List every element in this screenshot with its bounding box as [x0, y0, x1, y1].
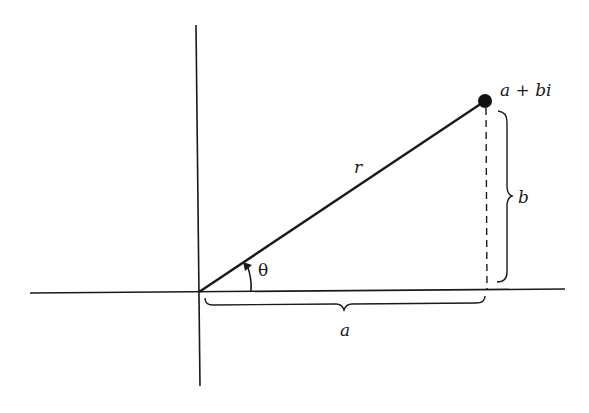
- radius-vector: [199, 101, 485, 292]
- dashed-projection-line: [486, 108, 487, 290]
- radius-label: r: [354, 157, 363, 177]
- complex-plane-diagram: a + bi r θ a b: [0, 0, 589, 413]
- real-axis: [30, 289, 565, 293]
- angle-label: θ: [258, 260, 268, 280]
- point-label: a + bi: [500, 80, 552, 100]
- imaginary-axis: [196, 25, 200, 386]
- complex-point: [478, 94, 492, 108]
- angle-arc: [247, 265, 251, 291]
- brace-b: [497, 111, 512, 282]
- imaginary-part-label: b: [518, 187, 529, 207]
- brace-a: [205, 296, 485, 310]
- angle-arrowhead-icon: [243, 262, 252, 271]
- real-part-label: a: [340, 320, 350, 340]
